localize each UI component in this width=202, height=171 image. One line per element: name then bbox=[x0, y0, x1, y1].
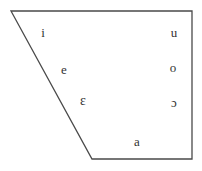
vowel-symbol-e: e bbox=[61, 63, 67, 76]
vowel-symbol-epsilon: ɛ bbox=[80, 94, 86, 108]
vowel-quadrilateral-chart: i e ɛ a ɔ o u bbox=[0, 0, 202, 171]
vowel-symbol-u: u bbox=[171, 26, 178, 39]
vowel-symbol-i: i bbox=[41, 26, 45, 39]
vowel-symbol-a: a bbox=[134, 135, 140, 148]
vowel-symbol-open-o: ɔ bbox=[171, 96, 177, 109]
vowel-symbol-o: o bbox=[170, 61, 177, 74]
vowel-quadrilateral-outline bbox=[11, 11, 192, 159]
